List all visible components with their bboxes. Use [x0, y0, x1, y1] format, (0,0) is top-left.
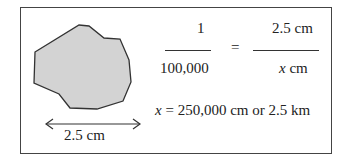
- unit-cm: cm: [286, 60, 308, 76]
- result-statement: x = 250,000 cm or 2.5 km: [155, 102, 310, 119]
- scale-length-label: 2.5 cm: [64, 127, 105, 144]
- left-fraction-line: [165, 50, 211, 51]
- land-area-polygon: [34, 25, 131, 109]
- right-numerator: 2.5 cm: [272, 20, 313, 37]
- right-denominator: x cm: [279, 60, 308, 77]
- left-denominator: 100,000: [160, 60, 209, 77]
- result-text: = 250,000 cm or 2.5 km: [162, 102, 310, 118]
- variable-x: x: [155, 102, 162, 118]
- right-fraction-line: [253, 50, 319, 51]
- variable-x: x: [279, 60, 286, 76]
- left-numerator: 1: [197, 20, 205, 37]
- equals-sign: =: [231, 39, 239, 56]
